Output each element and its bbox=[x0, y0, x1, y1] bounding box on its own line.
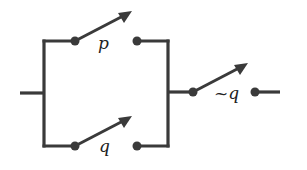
switch-not-q: ~q bbox=[189, 63, 260, 103]
circuit-diagram: p q ~q bbox=[0, 0, 307, 170]
switch-p: p bbox=[71, 11, 142, 53]
switch-q-label: q bbox=[99, 136, 110, 156]
switch-q: q bbox=[71, 116, 142, 156]
switch-p-label: p bbox=[98, 33, 109, 53]
switch-not-q-label: ~q bbox=[214, 83, 239, 103]
